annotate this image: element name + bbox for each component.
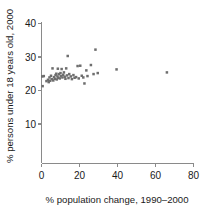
axes [42,22,195,164]
data-point [66,55,69,58]
data-point [63,71,66,74]
data-points [41,48,168,87]
data-point [65,67,68,70]
data-point [82,76,85,79]
data-point [60,68,63,71]
y-axis-title: % persons under 18 years old, 2000 [4,9,15,163]
data-point [79,64,82,67]
data-point [70,75,73,78]
x-tick-label: 0 [39,170,45,181]
data-point [85,69,88,72]
data-point [76,65,79,68]
data-point [72,74,75,77]
data-point [64,78,67,81]
data-point [58,77,61,80]
data-point [68,73,71,76]
data-point [41,85,44,88]
y-tick-label: 30 [25,52,37,63]
data-point [59,72,62,75]
data-point [96,72,99,75]
data-point [66,74,69,77]
y-tick-label: 40 [25,18,37,29]
data-point [90,64,93,67]
data-point [77,77,80,80]
data-point [115,68,118,71]
data-point [75,76,78,79]
y-axis-ticks: 10203040 [25,18,42,130]
scatter-plot-figure: 10203040 020406080 % population change, … [0,0,209,219]
data-point [92,73,95,76]
y-tick-label: 10 [25,119,37,130]
data-point [55,73,58,76]
data-point [51,67,54,70]
x-tick-label: 80 [188,170,200,181]
x-axis-ticks: 020406080 [39,164,200,182]
data-point [57,67,60,70]
x-tick-label: 20 [74,170,86,181]
data-point [86,75,89,78]
data-point [43,75,46,78]
data-point [61,76,64,79]
data-point [83,82,86,85]
data-point [50,75,53,78]
data-point [166,71,169,74]
chart-canvas: 10203040 020406080 % population change, … [0,0,209,219]
data-point [67,77,70,80]
y-tick-label: 20 [25,85,37,96]
x-axis-title: % population change, 1990–2000 [46,194,189,205]
data-point [47,79,50,82]
x-tick-label: 40 [112,170,124,181]
data-point [71,78,74,81]
x-tick-label: 60 [150,170,162,181]
data-point [94,48,97,51]
